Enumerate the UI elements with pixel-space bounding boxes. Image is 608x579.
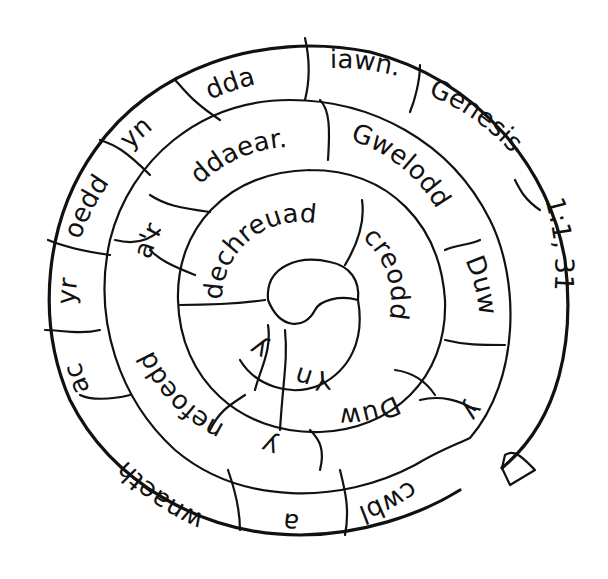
word-wnaeth: wnaeth <box>110 456 208 537</box>
word-dechreuad: dechreuad <box>198 198 318 301</box>
word-spiral: Yn y dechreuad creodd Duw y nefoedd a'r … <box>0 0 608 579</box>
word-y-inner-2: y <box>257 429 281 462</box>
word-reference: 1:1, 31 <box>539 194 579 292</box>
word-yn-outer: yn <box>113 110 157 154</box>
word-ar: a'r <box>127 218 168 262</box>
word-creodd: creodd <box>358 221 415 322</box>
word-iawn: iawn. <box>330 44 405 82</box>
word-yr: yr <box>51 276 83 306</box>
word-duw-middle: Duw <box>460 251 504 316</box>
word-yn-center: Yn <box>291 361 332 396</box>
word-duw-inner: Duw <box>339 390 405 433</box>
word-y-middle: y <box>456 397 489 427</box>
word-nefoedd: nefoedd <box>131 347 228 446</box>
word-genesis: Genesis <box>426 73 530 158</box>
word-gwelodd: Gwelodd <box>348 117 457 212</box>
word-dda: dda <box>201 61 258 106</box>
word-ac: ac <box>57 360 95 399</box>
word-ddaear: ddaear. <box>184 123 288 189</box>
